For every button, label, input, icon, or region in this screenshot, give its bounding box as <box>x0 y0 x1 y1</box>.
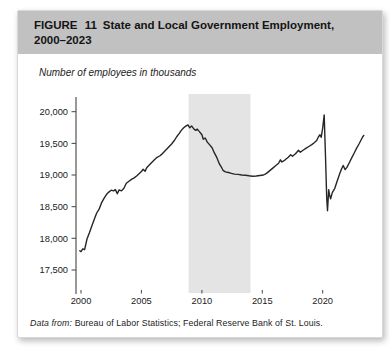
y-tick-label: 17,500 <box>40 265 68 275</box>
source-note: Data from: Bureau of Labor Statistics; F… <box>30 318 382 328</box>
figure-number-label: FIGURE 11 <box>34 19 97 31</box>
y-axis-units-label: Number of employees in thousands <box>39 67 382 78</box>
y-tick-label: 18,500 <box>40 202 68 212</box>
chart-area: 20,00019,50019,00018,50018,00017,5002000… <box>18 84 382 316</box>
y-tick-label: 19,000 <box>40 170 68 180</box>
x-tick-label: 2015 <box>252 296 273 306</box>
x-tick-label: 2020 <box>312 296 333 306</box>
y-tick-label: 19,500 <box>40 139 68 149</box>
figure-header: FIGURE 11State and Local Government Empl… <box>18 11 382 54</box>
x-tick-label: 2005 <box>131 296 152 306</box>
source-body: Bureau of Labor Statistics; Federal Rese… <box>75 318 323 328</box>
y-tick-label: 20,000 <box>40 107 68 117</box>
source-prefix: Data from: <box>30 318 72 328</box>
x-tick-label: 2010 <box>192 296 213 306</box>
figure-title-line2: 2000–2023 <box>34 34 92 46</box>
figure-title-line1: State and Local Government Employment, <box>103 19 334 31</box>
recession-shaded-band <box>189 94 251 293</box>
employment-line-chart: 20,00019,50019,00018,50018,00017,5002000… <box>18 84 384 312</box>
figure-card: FIGURE 11State and Local Government Empl… <box>17 10 383 338</box>
figure-body: Number of employees in thousands 20,0001… <box>18 67 382 337</box>
x-tick-label: 2000 <box>71 296 92 306</box>
y-tick-label: 18,000 <box>40 234 68 244</box>
